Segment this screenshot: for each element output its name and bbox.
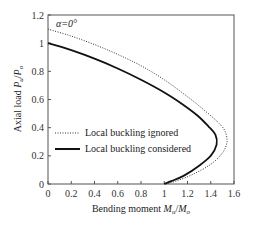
legend-label-ignored: Local buckling ignored: [85, 127, 178, 138]
y-tick-label: 0.6: [32, 94, 45, 105]
y-axis-label: Axial load Pu/Po: [12, 65, 25, 132]
plot-frame: [48, 15, 234, 184]
x-tick-label: 0.2: [65, 188, 78, 199]
y-tick-label: 1.2: [32, 10, 45, 21]
y-tick-label: 0.4: [32, 122, 45, 133]
interaction-chart: 00.20.40.60.811.21.41.6 00.20.40.60.811.…: [0, 0, 254, 225]
y-tick-label: 0.8: [32, 66, 45, 77]
legend: Local buckling ignored Local buckling co…: [55, 127, 191, 154]
x-tick-label: 1.2: [181, 188, 194, 199]
y-tick-label: 0.2: [32, 150, 45, 161]
x-tick-label: 0.6: [112, 188, 125, 199]
y-tick-label: 1: [39, 38, 44, 49]
x-axis-label: Bending moment Mu/Mo: [92, 203, 191, 216]
y-tick-label: 0: [39, 179, 44, 190]
legend-label-considered: Local buckling considered: [85, 143, 191, 154]
x-tick-label: 0.4: [88, 188, 101, 199]
series-local-buckling-considered: [48, 43, 217, 184]
data-series: [48, 29, 227, 184]
alpha-annotation: α=0°: [56, 18, 77, 29]
x-tick-label: 0: [46, 188, 51, 199]
x-tick-label: 0.8: [135, 188, 148, 199]
x-tick-label: 1.4: [205, 188, 218, 199]
x-tick-label: 1.6: [228, 188, 241, 199]
x-tick-label: 1: [162, 188, 167, 199]
